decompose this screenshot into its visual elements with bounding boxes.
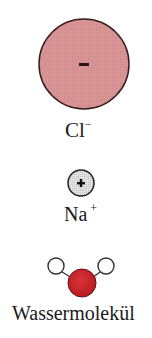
oxygen-atom	[68, 269, 96, 297]
hydrogen-atom-left	[48, 258, 64, 274]
chloride-ion: Cl−	[39, 19, 129, 142]
sodium-ion: Na+	[64, 170, 97, 225]
chloride-charge: −	[85, 117, 92, 131]
sodium-label: Na+	[64, 201, 97, 225]
ion-legend-diagram: Cl− Na+ Wassermolekül	[0, 0, 152, 338]
water-molecule: Wassermolekül	[12, 258, 135, 324]
minus-sign-icon	[79, 63, 89, 66]
water-label: Wassermolekül	[12, 302, 135, 324]
hydrogen-atom-right	[98, 258, 114, 274]
chloride-label: Cl−	[65, 117, 92, 142]
sodium-charge: +	[90, 201, 97, 215]
